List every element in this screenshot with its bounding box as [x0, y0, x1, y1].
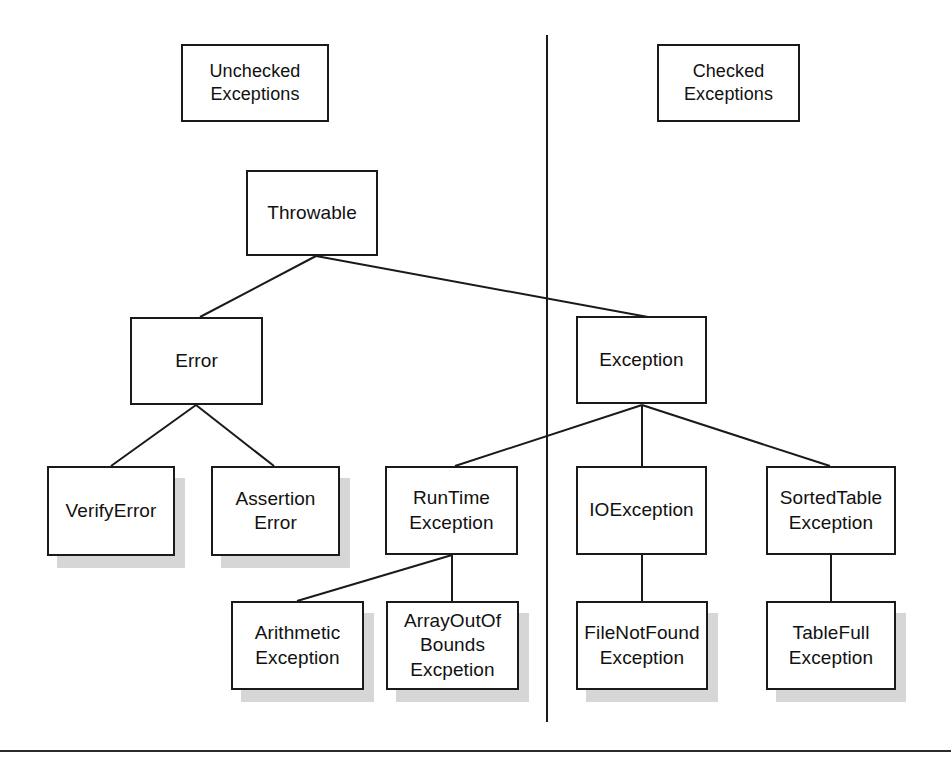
edge-exception-to-sortedtable: [642, 405, 830, 466]
node-filenotfound-exception[interactable]: FileNotFound Exception: [576, 601, 708, 690]
arrayoutofbounds-exception-label: ArrayOutOf Bounds Excpetion: [400, 609, 505, 682]
node-tablefull-exception[interactable]: TableFull Exception: [766, 601, 896, 690]
assertion-error-label: Assertion Error: [231, 487, 319, 536]
bottom-horizontal-rule: [0, 750, 951, 752]
sortedtable-exception-label: SortedTable Exception: [776, 486, 887, 535]
edge-exception-to-runtime: [455, 405, 642, 466]
checked-header-label: Checked Exceptions: [680, 60, 777, 106]
filenotfound-exception-label: FileNotFound Exception: [580, 621, 703, 670]
node-arrayoutofbounds-exception[interactable]: ArrayOutOf Bounds Excpetion: [386, 601, 519, 690]
node-runtime-exception[interactable]: RunTime Exception: [385, 466, 518, 555]
edge-error-to-verify-error: [111, 405, 196, 466]
header-checked-header[interactable]: Checked Exceptions: [657, 44, 800, 122]
tablefull-exception-label: TableFull Exception: [785, 621, 877, 670]
error-label: Error: [171, 349, 222, 373]
exception-hierarchy-diagram: Unchecked ExceptionsChecked ExceptionsTh…: [0, 0, 951, 760]
edge-error-to-assertion-error: [196, 405, 274, 466]
arithmetic-exception-label: Arithmetic Exception: [251, 621, 344, 670]
edge-throwable-to-exception: [316, 256, 648, 317]
verify-error-label: VerifyError: [62, 499, 161, 523]
node-throwable[interactable]: Throwable: [246, 170, 378, 256]
node-error[interactable]: Error: [130, 317, 263, 405]
node-assertion-error[interactable]: Assertion Error: [211, 466, 340, 556]
vertical-divider: [546, 35, 548, 722]
node-exception[interactable]: Exception: [576, 316, 707, 404]
node-arithmetic-exception[interactable]: Arithmetic Exception: [231, 601, 364, 690]
throwable-label: Throwable: [263, 201, 361, 225]
runtime-exception-label: RunTime Exception: [405, 486, 497, 535]
io-exception-label: IOException: [585, 498, 698, 522]
node-sortedtable-exception[interactable]: SortedTable Exception: [766, 466, 896, 555]
edge-throwable-to-error: [200, 256, 316, 317]
node-verify-error[interactable]: VerifyError: [47, 466, 175, 556]
unchecked-header-label: Unchecked Exceptions: [206, 60, 305, 106]
node-io-exception[interactable]: IOException: [576, 466, 707, 555]
exception-label: Exception: [595, 348, 687, 372]
header-unchecked-header[interactable]: Unchecked Exceptions: [181, 44, 329, 122]
